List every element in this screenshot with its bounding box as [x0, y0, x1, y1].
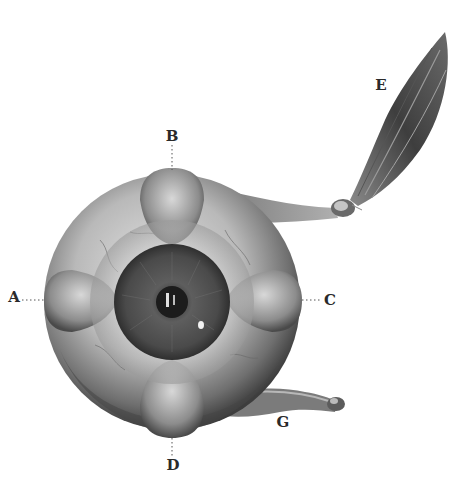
eye-drawing [0, 0, 458, 486]
label-e: E [375, 78, 386, 93]
label-b: B [166, 129, 179, 144]
pupil [156, 286, 188, 318]
label-d: D [166, 458, 179, 473]
label-a: A [8, 290, 20, 305]
label-g: G [277, 415, 290, 430]
eye-muscle-illustration: B A C E G D [0, 0, 458, 486]
muscle-e [350, 32, 448, 206]
label-c: C [324, 293, 336, 308]
